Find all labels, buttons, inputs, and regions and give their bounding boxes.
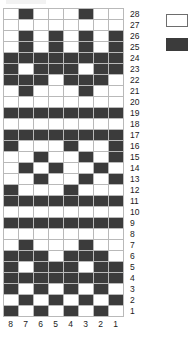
stitch-cell[interactable] <box>109 284 124 295</box>
stitch-cell[interactable] <box>49 174 64 185</box>
stitch-cell[interactable] <box>109 130 124 141</box>
stitch-cell[interactable] <box>19 53 34 64</box>
stitch-cell[interactable] <box>94 251 109 262</box>
stitch-cell[interactable] <box>94 185 109 196</box>
stitch-cell[interactable] <box>4 108 19 119</box>
stitch-cell[interactable] <box>79 174 94 185</box>
stitch-cell[interactable] <box>34 174 49 185</box>
stitch-cell[interactable] <box>19 229 34 240</box>
stitch-cell[interactable] <box>34 152 49 163</box>
stitch-cell[interactable] <box>19 64 34 75</box>
stitch-cell[interactable] <box>19 163 34 174</box>
stitch-cell[interactable] <box>64 86 79 97</box>
stitch-cell[interactable] <box>19 185 34 196</box>
stitch-cell[interactable] <box>4 207 19 218</box>
stitch-cell[interactable] <box>49 163 64 174</box>
stitch-cell[interactable] <box>94 53 109 64</box>
stitch-cell[interactable] <box>64 75 79 86</box>
stitch-cell[interactable] <box>19 108 34 119</box>
stitch-cell[interactable] <box>49 53 64 64</box>
stitch-cell[interactable] <box>34 31 49 42</box>
stitch-cell[interactable] <box>4 97 19 108</box>
stitch-cell[interactable] <box>64 119 79 130</box>
stitch-cell[interactable] <box>64 273 79 284</box>
stitch-cell[interactable] <box>34 108 49 119</box>
stitch-cell[interactable] <box>4 53 19 64</box>
stitch-cell[interactable] <box>4 229 19 240</box>
stitch-cell[interactable] <box>94 75 109 86</box>
stitch-cell[interactable] <box>79 141 94 152</box>
stitch-cell[interactable] <box>34 218 49 229</box>
stitch-cell[interactable] <box>94 152 109 163</box>
stitch-cell[interactable] <box>64 141 79 152</box>
stitch-cell[interactable] <box>94 207 109 218</box>
stitch-cell[interactable] <box>49 262 64 273</box>
stitch-cell[interactable] <box>34 240 49 251</box>
stitch-cell[interactable] <box>4 141 19 152</box>
stitch-cell[interactable] <box>34 97 49 108</box>
stitch-cell[interactable] <box>19 306 34 317</box>
stitch-cell[interactable] <box>79 207 94 218</box>
stitch-cell[interactable] <box>94 174 109 185</box>
stitch-cell[interactable] <box>19 20 34 31</box>
stitch-cell[interactable] <box>34 284 49 295</box>
stitch-cell[interactable] <box>64 229 79 240</box>
stitch-cell[interactable] <box>4 20 19 31</box>
stitch-cell[interactable] <box>94 295 109 306</box>
stitch-cell[interactable] <box>64 31 79 42</box>
stitch-cell[interactable] <box>94 284 109 295</box>
stitch-cell[interactable] <box>4 9 19 20</box>
stitch-cell[interactable] <box>94 20 109 31</box>
stitch-cell[interactable] <box>34 42 49 53</box>
stitch-cell[interactable] <box>4 42 19 53</box>
stitch-cell[interactable] <box>64 185 79 196</box>
stitch-cell[interactable] <box>109 42 124 53</box>
stitch-cell[interactable] <box>34 86 49 97</box>
stitch-cell[interactable] <box>4 174 19 185</box>
stitch-cell[interactable] <box>79 196 94 207</box>
stitch-cell[interactable] <box>34 119 49 130</box>
stitch-cell[interactable] <box>49 218 64 229</box>
stitch-cell[interactable] <box>34 9 49 20</box>
stitch-cell[interactable] <box>64 163 79 174</box>
stitch-cell[interactable] <box>79 229 94 240</box>
stitch-cell[interactable] <box>64 130 79 141</box>
stitch-cell[interactable] <box>19 284 34 295</box>
stitch-cell[interactable] <box>4 240 19 251</box>
stitch-cell[interactable] <box>79 251 94 262</box>
stitch-cell[interactable] <box>64 174 79 185</box>
stitch-cell[interactable] <box>4 196 19 207</box>
stitch-cell[interactable] <box>34 295 49 306</box>
stitch-cell[interactable] <box>49 185 64 196</box>
stitch-cell[interactable] <box>19 262 34 273</box>
stitch-cell[interactable] <box>49 306 64 317</box>
stitch-cell[interactable] <box>64 9 79 20</box>
stitch-cell[interactable] <box>109 295 124 306</box>
stitch-cell[interactable] <box>34 141 49 152</box>
stitch-cell[interactable] <box>109 240 124 251</box>
stitch-cell[interactable] <box>4 251 19 262</box>
stitch-cell[interactable] <box>64 108 79 119</box>
stitch-cell[interactable] <box>49 196 64 207</box>
stitch-cell[interactable] <box>49 273 64 284</box>
stitch-cell[interactable] <box>49 240 64 251</box>
stitch-cell[interactable] <box>49 141 64 152</box>
stitch-cell[interactable] <box>34 251 49 262</box>
stitch-cell[interactable] <box>34 20 49 31</box>
stitch-cell[interactable] <box>109 207 124 218</box>
stitch-cell[interactable] <box>94 119 109 130</box>
stitch-cell[interactable] <box>94 97 109 108</box>
stitch-cell[interactable] <box>109 152 124 163</box>
stitch-cell[interactable] <box>79 31 94 42</box>
stitch-cell[interactable] <box>94 262 109 273</box>
stitch-cell[interactable] <box>109 53 124 64</box>
stitch-cell[interactable] <box>79 273 94 284</box>
stitch-cell[interactable] <box>109 163 124 174</box>
stitch-cell[interactable] <box>79 130 94 141</box>
stitch-cell[interactable] <box>34 185 49 196</box>
stitch-cell[interactable] <box>79 20 94 31</box>
stitch-cell[interactable] <box>49 108 64 119</box>
stitch-cell[interactable] <box>109 218 124 229</box>
stitch-cell[interactable] <box>79 152 94 163</box>
stitch-cell[interactable] <box>49 75 64 86</box>
